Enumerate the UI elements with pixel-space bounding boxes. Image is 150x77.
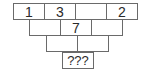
- pyramid-cell: [77, 35, 109, 52]
- pyramid-answer-cell: ???: [62, 52, 94, 69]
- pyramid-cell: [75, 3, 107, 20]
- pyramid-cell: [29, 19, 61, 36]
- pyramid-row-4: ???: [62, 52, 94, 69]
- pyramid-cell: 3: [44, 3, 76, 20]
- pyramid-row-1: 1 3 2: [13, 3, 138, 20]
- pyramid-row-2: 7: [29, 19, 123, 36]
- pyramid-cell: 7: [60, 19, 92, 36]
- pyramid-cell: [46, 35, 78, 52]
- number-pyramid: 1 3 2 7 ???: [0, 0, 150, 77]
- pyramid-cell: [91, 19, 123, 36]
- pyramid-row-3: [46, 35, 109, 52]
- pyramid-cell: 2: [106, 3, 138, 20]
- pyramid-cell: 1: [13, 3, 45, 20]
